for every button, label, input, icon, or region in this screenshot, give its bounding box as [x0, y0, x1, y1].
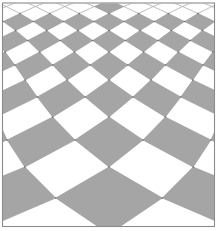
junction-dot [108, 13, 110, 15]
junction-dot [108, 30, 110, 32]
junction-dot [46, 30, 48, 32]
junction-dot [108, 116, 110, 118]
junction-dot [89, 64, 91, 66]
floor-svg [0, 0, 219, 231]
junction-dot [63, 21, 65, 23]
junction-dot [55, 197, 57, 199]
perspective-floor-figure [0, 0, 219, 231]
junction-dot [108, 79, 110, 81]
junction-dot [212, 51, 214, 53]
junction-dot [139, 30, 141, 32]
junction-dot [59, 40, 61, 42]
junction-dot [93, 21, 95, 23]
junction-dot [150, 79, 152, 81]
junction-dot [19, 13, 21, 15]
junction-dot [77, 30, 79, 32]
junction-dot [74, 51, 76, 53]
junction-dot [39, 51, 41, 53]
junction-dot [168, 13, 170, 15]
junction-dot [92, 40, 94, 42]
junction-dot [108, 166, 110, 168]
junction-dot [165, 64, 167, 66]
junction-dot [202, 64, 204, 66]
junction-dot [184, 21, 186, 23]
junction-dot [6, 139, 8, 141]
junction-dot [84, 96, 86, 98]
junction-dot [52, 116, 54, 118]
junction-dot [24, 79, 26, 81]
junction-dot [52, 64, 54, 66]
junction-dot [36, 96, 38, 98]
junction-dot [210, 139, 212, 141]
junction-dot [157, 40, 159, 42]
junction-dot [24, 166, 26, 168]
junction-dot [123, 21, 125, 23]
junction-dot [178, 51, 180, 53]
junction-dot [192, 79, 194, 81]
junction-dot [66, 79, 68, 81]
junction-dot [180, 96, 182, 98]
junction-dot [74, 139, 76, 141]
junction-dot [15, 30, 17, 32]
junction-dot [202, 30, 204, 32]
junction-dot [27, 40, 29, 42]
junction-dot [138, 13, 140, 15]
junction-dot [33, 21, 35, 23]
junction-dot [162, 197, 164, 199]
junction-dot [14, 64, 16, 66]
junction-dot [125, 40, 127, 42]
junction-dot [49, 13, 51, 15]
junction-dot [142, 139, 144, 141]
junction-dot [4, 51, 6, 53]
junction-dot [165, 116, 167, 118]
junction-dot [132, 96, 134, 98]
junction-dot [79, 13, 81, 15]
junction-dot [143, 51, 145, 53]
junction-dot [171, 30, 173, 32]
junction-dot [192, 166, 194, 168]
junction-dot [108, 51, 110, 53]
junction-dot [190, 40, 192, 42]
junction-dot [197, 13, 199, 15]
junction-dot [154, 21, 156, 23]
junction-dot [127, 64, 129, 66]
